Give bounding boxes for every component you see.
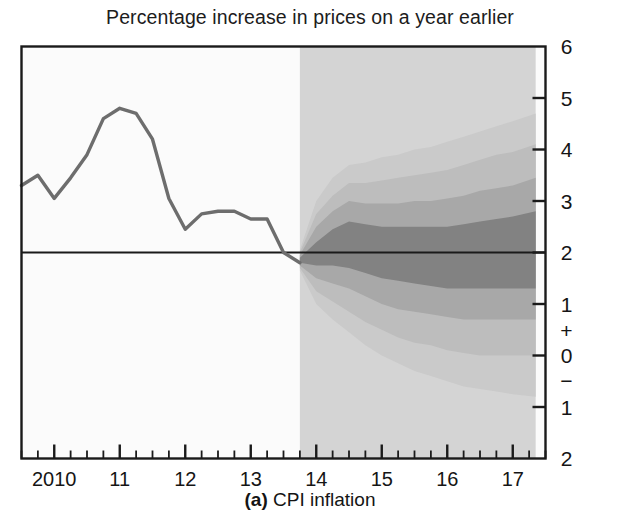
x-axis-label: 12 (174, 468, 196, 490)
x-axis-tick-labels: 201011121314151617 (32, 468, 524, 490)
y-axis-tick-labels: 654321+0−12 (560, 35, 572, 470)
x-axis-label: 2010 (32, 468, 77, 490)
x-axis-label: 14 (305, 468, 327, 490)
y-axis-label: 2 (561, 241, 573, 264)
x-axis-label: 16 (436, 468, 458, 490)
chart-caption: (a) CPI inflation (0, 489, 620, 511)
y-axis-label: − (560, 369, 572, 392)
x-axis-label: 13 (240, 468, 262, 490)
cpi-inflation-fan-chart: Percentage increase in prices on a year … (0, 0, 620, 528)
y-axis-label: 2 (561, 447, 573, 470)
x-axis-label: 15 (371, 468, 393, 490)
y-axis-label: 5 (561, 87, 573, 110)
panel-label: CPI inflation (273, 489, 375, 510)
y-axis-label: 3 (561, 190, 573, 213)
chart-canvas: 654321+0−12 201011121314151617 (0, 0, 620, 528)
y-axis-label: 1 (561, 293, 573, 316)
y-axis-label: 4 (561, 138, 573, 161)
x-axis-label: 17 (502, 468, 524, 490)
x-axis-label: 11 (109, 468, 130, 490)
y-axis-label: 0 (561, 344, 573, 367)
y-axis-label: 6 (561, 35, 573, 58)
y-axis-label: + (560, 319, 572, 342)
panel-letter: (a) (245, 489, 268, 510)
y-axis-label: 1 (561, 396, 573, 419)
